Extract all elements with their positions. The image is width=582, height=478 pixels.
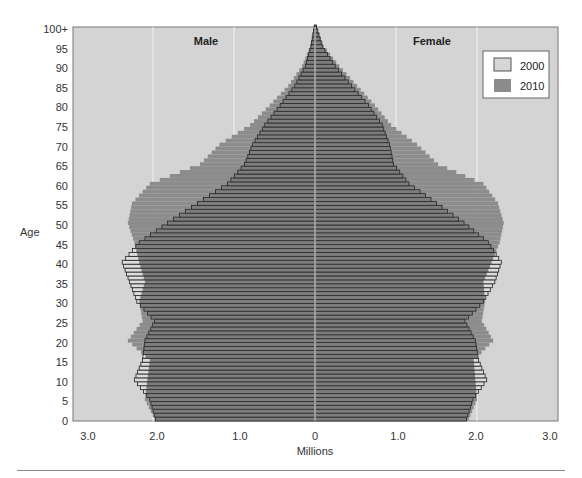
bar-male-overlap (147, 382, 315, 386)
bar-female-overlap (315, 362, 474, 366)
bar-male-overlap (249, 150, 315, 154)
bar-female-overlap (315, 33, 319, 37)
bar-female-overlap (315, 186, 414, 190)
bar-male-overlap (152, 405, 315, 409)
bar-female-overlap (315, 409, 469, 413)
bar-female-overlap (315, 162, 394, 166)
y-tick-label: 0 (62, 415, 68, 427)
bar-female-overlap (315, 190, 420, 194)
bar-female-overlap (315, 96, 362, 100)
bar-male-overlap (162, 225, 315, 229)
bar-female-overlap (315, 366, 474, 370)
x-axis-ticks: 3.02.01.001.02.03.0 (80, 430, 557, 442)
bar-female-overlap (315, 174, 403, 178)
bar-male-overlap (241, 166, 315, 170)
bar-female-overlap (315, 327, 469, 331)
bar-male-overlap (253, 143, 315, 147)
bar-male-overlap (309, 52, 315, 56)
bar-male-overlap (149, 366, 315, 370)
y-tick-label: 45 (56, 239, 68, 251)
bar-male-overlap (139, 299, 315, 303)
legend-label-2000: 2000 (520, 60, 544, 72)
bar-female-overlap (315, 276, 485, 280)
y-tick-label: 65 (56, 160, 68, 172)
bar-female-overlap (315, 213, 453, 217)
bottom-divider (17, 470, 565, 471)
bar-male-overlap (271, 115, 315, 119)
bar-male-overlap (303, 68, 315, 72)
bar-female-overlap (315, 335, 473, 339)
bar-male-overlap (138, 256, 315, 260)
bar-female-overlap (315, 323, 467, 327)
bar-male-overlap (153, 323, 315, 327)
bar-male-overlap (148, 374, 315, 378)
male-panel-label: Male (194, 35, 218, 47)
bar-male-overlap (251, 147, 315, 151)
bar-male-overlap (216, 190, 315, 194)
bar-female-overlap (315, 131, 385, 135)
bar-male-overlap (148, 370, 315, 374)
bar-male-overlap (238, 170, 315, 174)
bar-male-overlap (192, 205, 315, 209)
bar-female-overlap (315, 84, 351, 88)
bar-male-overlap (277, 107, 315, 111)
bar-female-overlap (315, 288, 484, 292)
bar-male-overlap (289, 92, 315, 96)
bar-female-overlap (315, 88, 355, 92)
bar-male-overlap (147, 378, 315, 382)
bar-female-overlap (315, 194, 425, 198)
bar-male-overlap (144, 307, 315, 311)
bar-female-overlap (315, 166, 397, 170)
bar-male-overlap (144, 276, 315, 280)
bar-female-overlap (315, 401, 472, 405)
bar-male-overlap (153, 409, 315, 413)
bar-male-overlap (257, 135, 315, 139)
y-tick-label: 60 (56, 180, 68, 192)
bar-female-overlap (315, 92, 358, 96)
bar-female-overlap (315, 256, 493, 260)
y-tick-label: 95 (56, 43, 68, 55)
bar-male-overlap (268, 119, 315, 123)
bar-male-overlap (245, 162, 315, 166)
bar-female-overlap (315, 390, 476, 394)
bar-female-overlap (315, 147, 390, 151)
bar-male-overlap (154, 413, 315, 417)
bar-male-overlap (155, 417, 315, 421)
bar-male-overlap (143, 350, 315, 354)
bar-male-overlap (283, 100, 315, 104)
bar-female-overlap (315, 68, 338, 72)
bar-female-overlap (315, 49, 325, 53)
bar-female-overlap (315, 205, 442, 209)
bar-female-overlap (315, 397, 473, 401)
bar-male-overlap (186, 209, 315, 213)
bar-male-overlap (141, 292, 315, 296)
bar-female-overlap (315, 221, 464, 225)
y-tick-label: 85 (56, 82, 68, 94)
bar-male-overlap (150, 397, 315, 401)
bar-male-overlap (222, 186, 315, 190)
bar-male-overlap (145, 339, 315, 343)
bar-male-overlap (274, 111, 315, 115)
bar-male-overlap (147, 311, 315, 315)
y-axis-label: Age (20, 226, 40, 238)
legend-swatch-2000 (494, 58, 511, 71)
y-tick-label: 50 (56, 219, 68, 231)
bar-male-overlap (174, 217, 315, 221)
bar-female-overlap (315, 111, 374, 115)
legend-label-2010: 2010 (520, 80, 544, 92)
bar-male-overlap (306, 60, 315, 64)
bar-female-overlap (315, 241, 488, 245)
bar-female-overlap (315, 237, 483, 241)
bar-male-overlap (228, 182, 315, 186)
bar-female-overlap (315, 358, 474, 362)
x-tick-label: 1.0 (390, 430, 405, 442)
bar-female-overlap (315, 394, 476, 398)
bar-male-overlap (150, 358, 315, 362)
bar-female-overlap (315, 296, 485, 300)
bar-female-overlap (315, 37, 320, 41)
bar-female-overlap (315, 119, 379, 123)
y-tick-label: 25 (56, 317, 68, 329)
bar-female-overlap (315, 249, 494, 253)
bar-female-overlap (315, 292, 484, 296)
bar-female-overlap (315, 115, 377, 119)
